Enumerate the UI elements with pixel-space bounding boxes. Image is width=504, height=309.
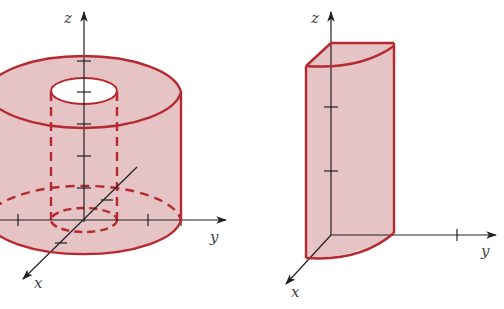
wedge-body <box>306 43 394 258</box>
y-axis-label: y <box>209 228 219 246</box>
x-axis-label: x <box>34 274 43 292</box>
z-axis-label: z <box>310 9 319 27</box>
right-figure-quarter-cylinder: z y x <box>286 9 496 301</box>
left-figure-hollow-cylinder: z y x <box>0 9 226 292</box>
z-axis-label: z <box>63 9 72 27</box>
y-axis-label: y <box>480 242 490 260</box>
x-axis-label: x <box>291 283 300 301</box>
diagram-canvas: z y x z y x <box>0 0 504 309</box>
